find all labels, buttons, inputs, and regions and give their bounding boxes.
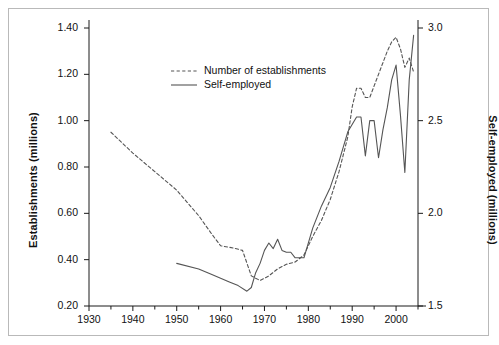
figure-frame: Establishments (millions) Self-employed … <box>8 8 489 336</box>
y-axis-right-tick-label: 3.0 <box>428 21 462 33</box>
x-axis-tick-label: 1980 <box>288 313 328 325</box>
x-axis-tick-label: 1960 <box>201 313 241 325</box>
y-axis-left-title: Establishments (millions) <box>27 100 39 260</box>
y-axis-right-tick-label: 2.5 <box>428 114 462 126</box>
x-axis-tick-label: 1950 <box>157 313 197 325</box>
chart-plot-area <box>9 9 488 335</box>
x-axis-tick-label: 2000 <box>376 313 416 325</box>
x-axis-tick-label: 1990 <box>332 313 372 325</box>
y-axis-left-tick-label: 0.20 <box>44 299 78 311</box>
y-axis-left-tick-label: 1.40 <box>44 21 78 33</box>
y-axis-right-title: Self-employed (millions) <box>487 100 499 260</box>
x-axis-tick-label: 1940 <box>113 313 153 325</box>
x-axis-tick-label: 1930 <box>69 313 109 325</box>
legend-label-0: Number of establishments <box>204 64 326 76</box>
y-axis-left-tick-label: 0.80 <box>44 160 78 172</box>
y-axis-right-tick-label: 2.0 <box>428 206 462 218</box>
y-axis-left-tick-label: 1.20 <box>44 67 78 79</box>
legend-sample-lines <box>171 71 197 85</box>
y-axis-left-tick-label: 0.40 <box>44 253 78 265</box>
y-axis-left-tick-label: 0.60 <box>44 206 78 218</box>
legend-label-1: Self-employed <box>204 78 271 90</box>
y-axis-right-tick-label: 1.5 <box>428 299 462 311</box>
x-axis-tick-label: 1970 <box>244 313 284 325</box>
y-axis-left-tick-label: 1.00 <box>44 114 78 126</box>
